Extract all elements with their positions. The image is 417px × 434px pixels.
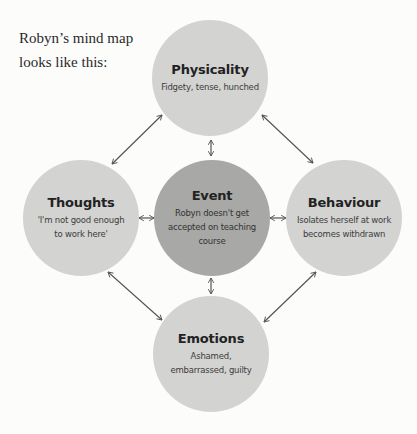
node-emotions: Emotions Ashamed, embarrassed, guilty [153, 296, 269, 412]
node-event-text: Robyn doesn't get accepted on teaching c… [160, 206, 264, 248]
arrow-thoughts-emotions [108, 272, 162, 320]
node-event-title: Event [192, 188, 233, 203]
node-emotions-text: Ashamed, embarrassed, guilty [159, 349, 263, 377]
node-thoughts-title: Thoughts [47, 195, 114, 210]
node-physicality-title: Physicality [171, 62, 248, 77]
node-physicality: Physicality Fidgety, tense, hunched [152, 20, 268, 136]
node-thoughts-text: 'I'm not good enough to work here' [29, 213, 133, 241]
arrow-physicality-behaviour [262, 115, 313, 163]
node-thoughts: Thoughts 'I'm not good enough to work he… [23, 160, 139, 276]
arrow-behaviour-emotions [264, 272, 316, 322]
node-physicality-text: Fidgety, tense, hunched [161, 80, 259, 94]
arrow-physicality-thoughts [112, 115, 162, 164]
node-emotions-title: Emotions [178, 331, 244, 346]
node-behaviour-text: Isolates herself at work becomes withdra… [292, 213, 396, 241]
node-behaviour-title: Behaviour [308, 195, 380, 210]
node-event: Event Robyn doesn't get accepted on teac… [154, 160, 270, 276]
node-behaviour: Behaviour Isolates herself at work becom… [286, 160, 402, 276]
